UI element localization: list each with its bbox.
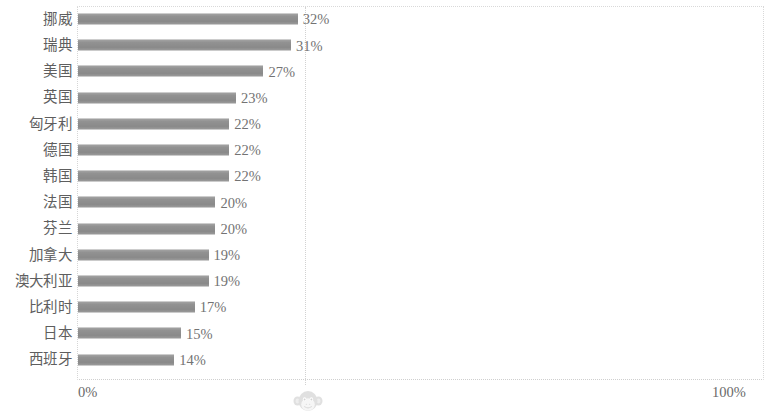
category-label: 加拿大 — [0, 248, 72, 263]
bar-and-value: 27% — [78, 66, 295, 77]
bar-and-value: 20% — [78, 197, 247, 208]
bar — [78, 66, 263, 77]
bar — [78, 302, 195, 313]
bar-row: 韩国22% — [0, 163, 772, 189]
bar-value-label: 15% — [186, 326, 213, 341]
bar-and-value: 15% — [78, 328, 213, 339]
bar — [78, 14, 298, 25]
x-axis-tick-100: 100% — [712, 384, 746, 401]
bar-row: 匈牙利22% — [0, 111, 772, 137]
bar — [78, 118, 229, 129]
bar — [78, 171, 229, 182]
bar-value-label: 27% — [268, 64, 295, 79]
bar-row: 日本15% — [0, 320, 772, 346]
bar-value-label: 22% — [234, 117, 261, 132]
bar-row: 加拿大19% — [0, 242, 772, 268]
bar-and-value: 20% — [78, 223, 247, 234]
category-label: 西班牙 — [0, 352, 72, 367]
bar-row: 挪威32% — [0, 6, 772, 32]
category-label: 法国 — [0, 195, 72, 210]
bar-value-label: 22% — [234, 169, 261, 184]
bar — [78, 92, 236, 103]
bar-and-value: 22% — [78, 145, 261, 156]
category-label: 澳大利亚 — [0, 274, 72, 289]
category-label: 匈牙利 — [0, 117, 72, 132]
category-label: 瑞典 — [0, 38, 72, 53]
category-label: 美国 — [0, 64, 72, 79]
bar-row: 英国23% — [0, 85, 772, 111]
bar-value-label: 32% — [303, 12, 330, 27]
bar-row: 比利时17% — [0, 294, 772, 320]
bar-row: 芬兰20% — [0, 216, 772, 242]
bar-value-label: 20% — [220, 221, 247, 236]
x-axis: 0% 100% — [0, 384, 772, 412]
bar-row: 美国27% — [0, 58, 772, 84]
horizontal-bar-chart: 挪威32%瑞典31%美国27%英国23%匈牙利22%德国22%韩国22%法国20… — [0, 0, 772, 419]
bar-row: 西班牙14% — [0, 346, 772, 372]
category-label: 韩国 — [0, 169, 72, 184]
bar-value-label: 19% — [214, 274, 241, 289]
bar-value-label: 20% — [220, 195, 247, 210]
bar — [78, 275, 209, 286]
bar — [78, 354, 174, 365]
category-label: 英国 — [0, 90, 72, 105]
bar — [78, 223, 215, 234]
bar-rows-container: 挪威32%瑞典31%美国27%英国23%匈牙利22%德国22%韩国22%法国20… — [0, 6, 772, 380]
bar-and-value: 19% — [78, 249, 240, 260]
bar — [78, 249, 209, 260]
bar-value-label: 17% — [200, 300, 227, 315]
bar-and-value: 32% — [78, 14, 329, 25]
x-axis-tick-0: 0% — [78, 384, 97, 401]
category-label: 比利时 — [0, 300, 72, 315]
bar-value-label: 23% — [241, 90, 268, 105]
bar-value-label: 31% — [296, 38, 323, 53]
bar-and-value: 19% — [78, 275, 240, 286]
bar-value-label: 19% — [214, 248, 241, 263]
bar — [78, 328, 181, 339]
category-label: 芬兰 — [0, 221, 72, 236]
bar-and-value: 23% — [78, 92, 268, 103]
bar — [78, 40, 291, 51]
bar-value-label: 14% — [179, 352, 206, 367]
category-label: 德国 — [0, 143, 72, 158]
bar-row: 德国22% — [0, 137, 772, 163]
bar-and-value: 22% — [78, 118, 261, 129]
bar-and-value: 17% — [78, 302, 226, 313]
bar-row: 法国20% — [0, 189, 772, 215]
category-label: 挪威 — [0, 12, 72, 27]
bar-row: 瑞典31% — [0, 32, 772, 58]
bar-and-value: 14% — [78, 354, 206, 365]
bar — [78, 145, 229, 156]
bar-and-value: 22% — [78, 171, 261, 182]
bar-row: 澳大利亚19% — [0, 268, 772, 294]
bar — [78, 197, 215, 208]
bar-value-label: 22% — [234, 143, 261, 158]
category-label: 日本 — [0, 326, 72, 341]
bar-and-value: 31% — [78, 40, 323, 51]
